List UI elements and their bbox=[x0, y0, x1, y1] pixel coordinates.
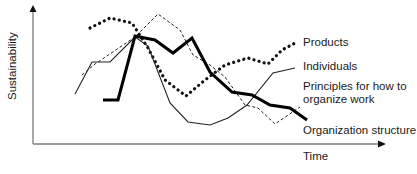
series-label-principles-line1: Principles for how to bbox=[303, 80, 407, 93]
series-label-individuals: Individuals bbox=[303, 60, 357, 73]
series-label-principles-line2: organize work bbox=[303, 93, 375, 106]
series-label-products: Products bbox=[303, 36, 348, 49]
x-axis-arrow-icon bbox=[378, 141, 386, 148]
series-line-organization-structure bbox=[103, 36, 307, 120]
x-axis-label: Time bbox=[303, 150, 328, 163]
series-label-organization-structure: Organization structure bbox=[303, 124, 416, 137]
y-axis-arrow-icon bbox=[30, 5, 37, 12]
y-axis-label: Sustainability bbox=[6, 32, 18, 100]
series-line-principles-for-how-to-organize-work bbox=[82, 14, 300, 124]
